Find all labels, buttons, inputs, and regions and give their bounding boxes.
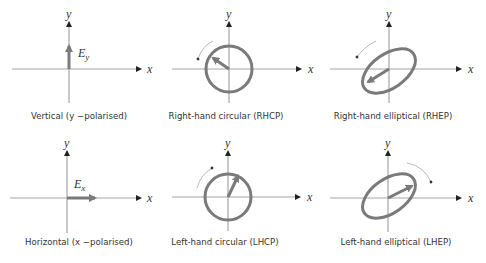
panel-horizontal: x y Ex <box>10 136 153 233</box>
rotation-arrow-ccw-icon <box>357 41 376 57</box>
y-axis-label: y <box>225 7 232 21</box>
x-axis-label: x <box>146 62 153 76</box>
x-axis-label: x <box>146 191 153 205</box>
panel-vertical: x y Ey <box>12 7 153 103</box>
x-axis-label: x <box>306 190 313 204</box>
rotation-arrow-cw-icon <box>407 163 431 182</box>
y-axis-label: y <box>63 136 70 150</box>
caption-vertical: Vertical (y −polarised) <box>31 111 127 121</box>
caption-rhep: Right-hand elliptical (RHEP) <box>334 111 453 121</box>
x-axis-label: x <box>467 191 474 205</box>
caption-lhep: Left-hand elliptical (LHEP) <box>341 237 452 247</box>
field-vector-arrow <box>228 176 238 197</box>
x-axis-label: x <box>307 62 314 76</box>
polarisation-diagram: x y Ey x y x y x y Ex x y <box>0 0 486 263</box>
vector-label: Ex <box>73 177 85 193</box>
caption-lhcp: Left-hand circular (LHCP) <box>171 237 278 247</box>
panel-rhcp: x y <box>172 7 314 103</box>
caption-rhcp: Right-hand circular (RHCP) <box>169 111 284 121</box>
vector-label: Ey <box>77 46 89 62</box>
x-axis-label: x <box>467 62 474 76</box>
panel-rhep: x y <box>330 7 474 103</box>
field-vector-arrow <box>213 58 229 69</box>
y-axis-label: y <box>385 7 392 21</box>
panel-lhep: x y <box>330 136 474 232</box>
field-vector-arrow <box>368 69 389 82</box>
panel-lhcp: x y <box>172 136 313 231</box>
y-axis-label: y <box>384 136 391 150</box>
caption-horizontal: Horizontal (x −polarised) <box>25 237 133 247</box>
y-axis-label: y <box>65 7 72 21</box>
y-axis-label: y <box>224 136 231 150</box>
field-vector-arrow <box>388 186 412 198</box>
